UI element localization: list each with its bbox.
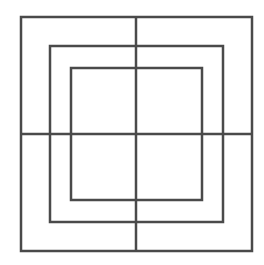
nested-squares-diagram <box>0 0 264 265</box>
